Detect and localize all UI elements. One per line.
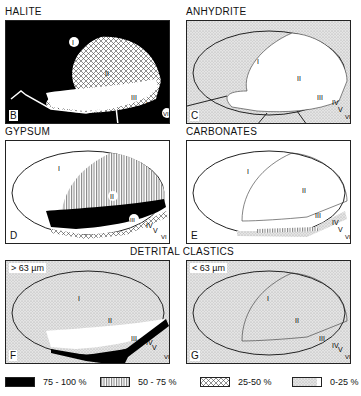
- svg-text:II: II: [108, 317, 112, 324]
- legend-item-25-50: 25-50 %: [200, 376, 272, 388]
- panel-gypsum: I II III IVVVI D: [5, 140, 170, 244]
- panel-letter: D: [9, 230, 18, 241]
- svg-text:I: I: [247, 168, 249, 175]
- panel-title-anhydrite: ANHYDRITE: [186, 6, 246, 17]
- swatch-vertical-lines: [100, 377, 130, 387]
- svg-text:IV: IV: [146, 222, 153, 229]
- panel-halite: I II III IV V VI B: [5, 20, 170, 124]
- legend-item-50-75: 50 - 75 %: [100, 376, 177, 388]
- svg-text:I: I: [72, 39, 74, 46]
- svg-text:VI: VI: [345, 114, 351, 120]
- panel-anhydrite: III IIIIV VVI C: [186, 20, 351, 124]
- svg-text:II: II: [297, 75, 301, 82]
- group-title-detrital-clastics: DETRITAL CLASTICS: [130, 246, 234, 257]
- svg-text:VI: VI: [161, 234, 167, 240]
- svg-text:VI: VI: [345, 234, 351, 240]
- svg-text:V: V: [152, 344, 157, 351]
- svg-text:IV: IV: [332, 99, 339, 106]
- panel-letter: C: [190, 110, 199, 121]
- panel-detrital-coarse: III IIIIV VVI > 63 µm F: [5, 260, 170, 364]
- panel-letter: G: [190, 350, 200, 361]
- svg-text:I: I: [58, 165, 60, 172]
- svg-text:II: II: [110, 193, 114, 200]
- panel-carbonates: III IIIIV VVI E: [186, 140, 351, 244]
- panel-letter: B: [9, 110, 18, 121]
- svg-text:VI: VI: [164, 354, 170, 360]
- grain-size-label: > 63 µm: [9, 263, 46, 273]
- svg-text:III: III: [315, 212, 321, 219]
- panel-letter: E: [190, 230, 199, 241]
- panel-title-gypsum: GYPSUM: [5, 126, 50, 137]
- swatch-stipple: [292, 377, 322, 387]
- svg-text:IV: IV: [332, 219, 339, 226]
- svg-text:V: V: [338, 106, 343, 113]
- svg-text:I: I: [257, 58, 259, 65]
- panel-title-carbonates: CARBONATES: [186, 126, 257, 137]
- swatch-black: [5, 377, 35, 387]
- svg-text:II: II: [295, 317, 299, 324]
- legend-item-75-100: 75 - 100 %: [5, 376, 87, 388]
- svg-text:II: II: [105, 70, 109, 77]
- svg-text:V: V: [153, 107, 158, 114]
- swatch-crosshatch: [200, 377, 230, 387]
- legend-item-0-25: 0-25 %: [292, 376, 359, 388]
- svg-text:III: III: [319, 335, 325, 342]
- svg-text:I: I: [78, 295, 80, 302]
- svg-text:III: III: [130, 217, 135, 223]
- svg-text:VI: VI: [345, 354, 351, 360]
- svg-text:V: V: [338, 346, 343, 353]
- grain-size-label: < 63 µm: [190, 263, 227, 273]
- svg-text:VI: VI: [163, 111, 169, 117]
- svg-text:IV: IV: [146, 101, 153, 108]
- svg-text:V: V: [338, 226, 343, 233]
- panel-detrital-fine: III IIIIV VVI < 63 µm G: [186, 260, 351, 364]
- svg-text:I: I: [267, 295, 269, 302]
- svg-text:III: III: [317, 94, 323, 101]
- panel-letter: F: [9, 350, 17, 361]
- svg-text:V: V: [153, 227, 158, 234]
- svg-text:III: III: [131, 335, 137, 342]
- svg-text:III: III: [131, 94, 137, 101]
- panel-title-halite: HALITE: [5, 6, 42, 17]
- svg-text:II: II: [302, 187, 306, 194]
